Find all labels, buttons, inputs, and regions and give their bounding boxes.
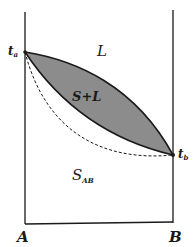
tb-label: tb: [178, 147, 189, 162]
bottom-axis: [25, 222, 173, 224]
component-a-label: A: [15, 228, 29, 246]
tb-point: [171, 153, 175, 157]
ta-label: ta: [8, 44, 19, 59]
phase-diagram: ta tb L S+L SAB A B: [0, 0, 196, 247]
component-b-label: B: [168, 228, 182, 246]
solid-region-label: SAB: [72, 166, 94, 185]
ta-point: [23, 50, 27, 54]
two-phase-region-label: S+L: [72, 89, 101, 104]
liquid-region-label: L: [96, 42, 107, 60]
